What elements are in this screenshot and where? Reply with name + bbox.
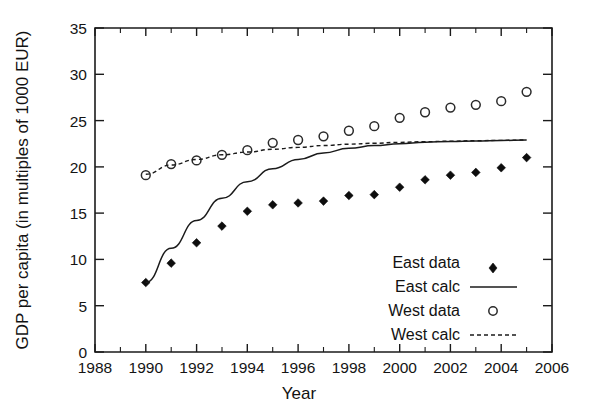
- x-tick-label: 1992: [179, 359, 213, 376]
- data-point-circle: [446, 103, 455, 112]
- data-point-circle: [497, 97, 506, 106]
- series-west-data: [141, 87, 531, 179]
- x-axis-ticks: [95, 28, 552, 352]
- chart-canvas: 35 30 25 20 15 10 5 0: [0, 0, 599, 420]
- x-tick-label: 2002: [433, 359, 467, 376]
- x-tick-label: 2000: [382, 359, 417, 376]
- x-tick-label: 1998: [332, 359, 366, 376]
- data-point-diamond: [345, 191, 354, 200]
- data-point-diamond: [370, 190, 379, 199]
- data-point-circle: [471, 100, 480, 109]
- data-point-diamond: [192, 238, 201, 247]
- data-point-circle: [421, 108, 430, 117]
- y-tick-label: 25: [70, 113, 87, 130]
- data-point-diamond: [268, 201, 277, 210]
- chart-legend: East data East calc West data West calc: [388, 254, 517, 343]
- series-west-calc: [146, 140, 527, 174]
- data-point-diamond: [218, 222, 227, 231]
- legend-label-west-calc: West calc: [391, 326, 460, 343]
- series-line: [146, 140, 527, 174]
- y-tick-label: 30: [70, 66, 88, 83]
- data-point-diamond: [243, 207, 252, 216]
- data-point-diamond: [446, 171, 455, 180]
- y-tick-label: 5: [78, 298, 87, 315]
- x-tick-label: 1996: [281, 359, 315, 376]
- y-axis-tick-labels: 35 30 25 20 15 10 5 0: [70, 20, 88, 361]
- data-point-circle: [395, 113, 404, 122]
- series-east-calc: [146, 140, 527, 283]
- legend-marker-east-data-diamond-icon: [489, 263, 497, 273]
- data-point-diamond: [294, 199, 303, 208]
- legend-label-west-data: West data: [388, 302, 460, 319]
- plot-frame: [95, 28, 552, 352]
- data-point-circle: [294, 136, 303, 145]
- data-point-diamond: [167, 259, 176, 268]
- x-tick-label: 1994: [230, 359, 265, 376]
- data-point-circle: [268, 138, 277, 147]
- data-point-diamond: [395, 183, 404, 192]
- y-tick-label: 10: [70, 251, 88, 268]
- data-point-circle: [344, 126, 353, 135]
- y-axis-title: GDP per capita (in multiples of 1000 EUR…: [13, 30, 32, 349]
- y-axis-ticks: [95, 28, 552, 352]
- x-tick-label: 2004: [484, 359, 519, 376]
- data-point-diamond: [472, 168, 481, 177]
- data-point-diamond: [497, 163, 506, 172]
- data-point-circle: [167, 160, 176, 169]
- series-line: [146, 140, 527, 283]
- x-tick-label: 1990: [129, 359, 164, 376]
- x-tick-label: 2006: [535, 359, 569, 376]
- x-axis-title: Year: [282, 384, 317, 403]
- x-axis-tick-labels: 1988 1990 1992 1994 1996 1998 2000 2002 …: [78, 359, 569, 376]
- data-point-circle: [319, 132, 328, 141]
- data-point-circle: [243, 146, 252, 155]
- y-tick-label: 20: [70, 159, 88, 176]
- y-tick-label: 35: [70, 20, 87, 37]
- legend-marker-west-data-circle-icon: [489, 307, 497, 315]
- x-tick-label: 1988: [78, 359, 112, 376]
- data-point-circle: [141, 171, 150, 180]
- data-point-circle: [370, 122, 379, 131]
- data-point-circle: [522, 87, 531, 96]
- legend-label-east-calc: East calc: [395, 278, 460, 295]
- data-point-diamond: [319, 197, 328, 206]
- legend-label-east-data: East data: [392, 254, 460, 271]
- data-series-layer: [141, 87, 531, 286]
- data-point-diamond: [522, 153, 531, 162]
- data-point-diamond: [421, 176, 430, 185]
- data-point-circle: [192, 156, 201, 165]
- chart-figure: 35 30 25 20 15 10 5 0: [0, 0, 599, 420]
- y-tick-label: 15: [70, 205, 87, 222]
